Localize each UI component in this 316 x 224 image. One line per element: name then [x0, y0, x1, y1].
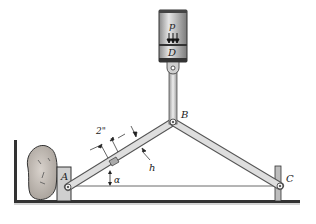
label-c: C: [286, 173, 294, 184]
angle-alpha: α: [108, 170, 120, 186]
label-thickness: h: [149, 162, 155, 173]
link-ab: [68, 122, 173, 187]
rock: [27, 145, 57, 199]
label-alpha: α: [114, 175, 120, 185]
pin-c: [277, 183, 283, 189]
pressure-arrows-icon: [167, 33, 179, 43]
pin-b: [170, 119, 176, 125]
label-piston: D: [167, 47, 176, 58]
hydraulic-cylinder: p D: [159, 10, 187, 74]
mechanism-diagram: p D A B C α 2": [0, 0, 316, 224]
piston-rod: [169, 68, 177, 124]
label-width: 2": [95, 126, 106, 136]
label-pressure: p: [169, 20, 176, 31]
label-b: B: [180, 109, 188, 120]
link-bc: [173, 122, 280, 186]
label-a: A: [60, 171, 68, 182]
pin-a: [65, 184, 71, 190]
